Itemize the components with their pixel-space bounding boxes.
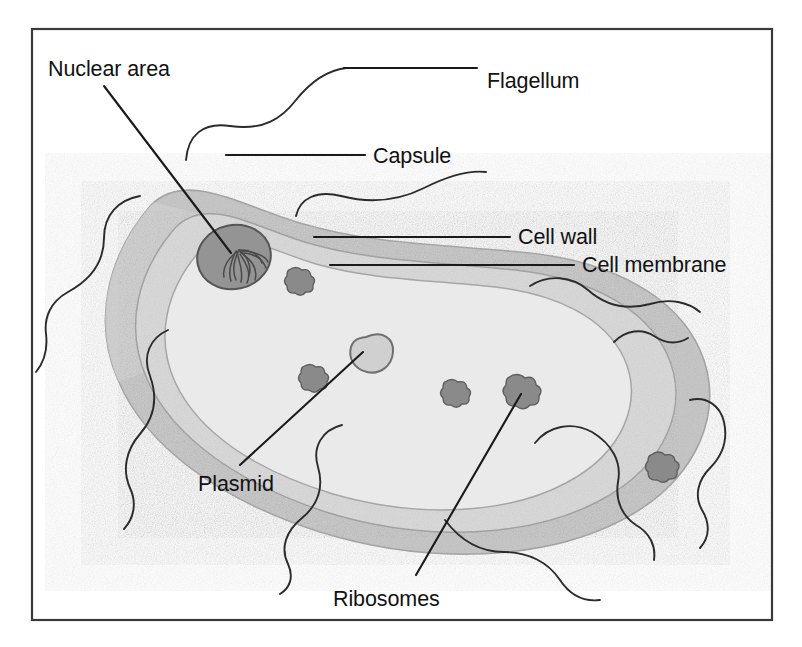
ribosome: [441, 380, 471, 408]
label-nuclear-area: Nuclear area: [48, 57, 170, 81]
label-cell-membrane: Cell membrane: [582, 253, 726, 277]
label-plasmid: Plasmid: [198, 472, 274, 496]
ribosome: [285, 268, 315, 296]
label-flagellum: Flagellum: [487, 69, 579, 93]
label-cell-wall: Cell wall: [518, 225, 597, 249]
plasmid-body: [350, 334, 393, 372]
label-ribosomes: Ribosomes: [333, 587, 440, 611]
bacterial-cell-figure: Nuclear area Flagellum Capsule Cell wall…: [0, 0, 802, 647]
plasmid-structure: [350, 334, 393, 372]
ribosome: [646, 452, 680, 482]
flagellum-filament: [186, 68, 346, 160]
label-capsule: Capsule: [373, 144, 451, 168]
flagellum-filament: [296, 172, 486, 216]
bacterial-cell-diagram-svg: Nuclear area Flagellum Capsule Cell wall…: [0, 0, 802, 647]
